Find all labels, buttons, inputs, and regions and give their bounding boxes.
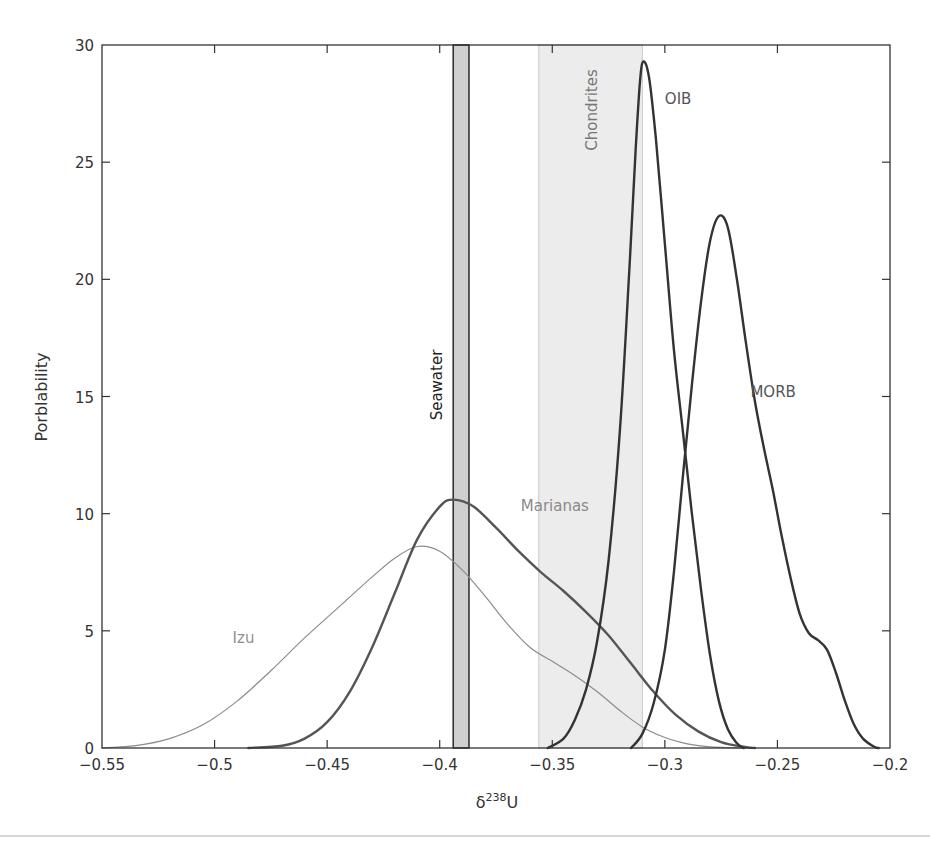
x-tick-label: −0.55	[79, 756, 125, 774]
y-tick-label: 25	[75, 154, 94, 172]
x-axis-title: δ238U	[476, 791, 519, 812]
seawater-label: Seawater	[428, 349, 446, 421]
chondrites-label: Chondrites	[583, 69, 601, 151]
x-tick-label: −0.3	[647, 756, 683, 774]
x-tick-label: −0.45	[304, 756, 350, 774]
y-tick-label: 30	[75, 37, 94, 55]
izu-label: Izu	[233, 629, 255, 647]
seawater-band	[453, 45, 469, 748]
x-axis-title-base: δ	[476, 793, 486, 812]
chart: −0.55−0.5−0.45−0.4−0.35−0.3−0.25−0.20510…	[0, 0, 930, 842]
y-tick-label: 20	[75, 271, 94, 289]
morb-label: MORB	[750, 383, 795, 401]
axis-ticks: −0.55−0.5−0.45−0.4−0.35−0.3−0.25−0.20510…	[75, 37, 908, 774]
x-tick-label: −0.35	[529, 756, 575, 774]
y-tick-label: 0	[84, 740, 94, 758]
x-axis-title-tail: U	[507, 793, 519, 812]
y-axis-title: Porblability	[32, 352, 51, 441]
x-tick-label: −0.5	[196, 756, 232, 774]
y-tick-label: 10	[75, 506, 94, 524]
series-labels: SeawaterChondritesIzuMarianasOIBMORB	[233, 69, 796, 646]
y-tick-label: 5	[84, 623, 94, 641]
page-divider	[0, 835, 930, 837]
marianas-curve	[248, 500, 755, 748]
marianas-label: Marianas	[521, 497, 589, 515]
x-tick-label: −0.4	[421, 756, 457, 774]
y-tick-label: 15	[75, 389, 94, 407]
x-axis-title-superscript: 238	[486, 791, 507, 804]
density-curves	[102, 61, 879, 748]
izu-curve	[102, 546, 744, 748]
x-tick-label: −0.25	[754, 756, 800, 774]
oib-label: OIB	[665, 90, 692, 108]
x-tick-label: −0.2	[872, 756, 908, 774]
